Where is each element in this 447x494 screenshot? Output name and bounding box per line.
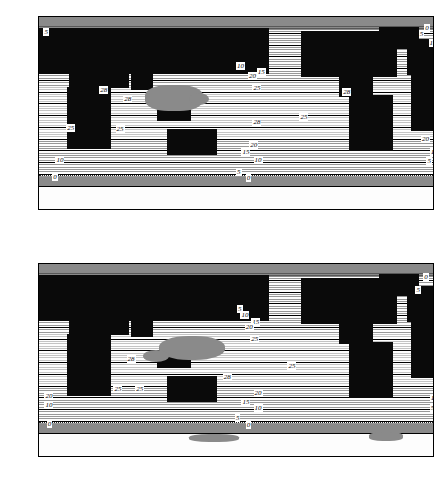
- contour-value-label: 25: [66, 124, 75, 132]
- x-axis-tick: [411, 456, 412, 457]
- contour-value-label: 5: [430, 404, 434, 412]
- y-axis-tick: [38, 17, 39, 18]
- contour-value-label: 0: [47, 420, 53, 428]
- antarctic-ice-region: [39, 177, 433, 186]
- y-axis-tick: [38, 209, 39, 210]
- continent-south-america: [349, 95, 393, 151]
- contour-value-label: 28: [127, 355, 136, 363]
- contour-value-label: 28: [223, 373, 232, 381]
- x-axis-tick: [302, 456, 303, 457]
- y-axis-tick: [38, 177, 39, 178]
- figure-container: 5051010152025282828282525252020151510105…: [0, 0, 447, 494]
- continent-eurasia-south: [69, 319, 129, 335]
- contour-value-label: 20: [249, 141, 258, 149]
- x-axis-tick: [170, 456, 171, 457]
- contour-value-label: 5: [43, 28, 49, 36]
- continent-australia: [167, 376, 217, 402]
- contour-value-label: 0: [52, 173, 58, 181]
- x-axis-tick: [83, 209, 84, 210]
- y-axis-tick: [38, 424, 39, 425]
- x-axis-tick: [170, 209, 171, 210]
- contour-value-label: 10: [429, 39, 434, 47]
- contour-value-label: 0: [423, 273, 429, 281]
- contour-value-label: 10: [254, 404, 263, 412]
- x-axis-tick: [258, 209, 259, 210]
- x-axis-tick: [345, 209, 346, 210]
- x-axis-tick: [389, 456, 390, 457]
- y-axis-tick: [38, 113, 39, 114]
- y-axis-tick: [38, 392, 39, 393]
- x-axis-tick: [214, 456, 215, 457]
- contour-value-label: 15: [430, 148, 434, 156]
- y-axis-tick: [38, 145, 39, 146]
- x-axis-tick: [83, 456, 84, 457]
- contour-value-label: 5: [235, 414, 241, 422]
- y-axis-tick: [38, 81, 39, 82]
- panel-top: 5051010152025282828282525252020151510105…: [0, 0, 447, 247]
- x-axis-tick: [127, 209, 128, 210]
- contour-value-label: 25: [250, 335, 259, 343]
- x-axis-tick: [127, 456, 128, 457]
- contour-value-label: 5: [236, 168, 242, 176]
- y-axis-tick: [38, 264, 39, 265]
- continent-africa-west: [411, 75, 433, 131]
- x-axis-tick: [39, 456, 40, 457]
- map-plot-bottom: 0551015202528252825252020151510105500 90…: [38, 263, 434, 457]
- contour-value-label: 28: [342, 88, 351, 96]
- contour-value-label: 10: [55, 156, 64, 164]
- x-axis-tick: [411, 209, 412, 210]
- x-axis-tick: [433, 209, 434, 210]
- warm-pool-shading-east: [189, 93, 209, 105]
- antarctic-shelf-shading-east: [369, 432, 403, 441]
- contour-value-label: 10: [44, 401, 53, 409]
- contour-value-label: 20: [254, 389, 263, 397]
- continent-central-america: [339, 322, 373, 344]
- contour-value-label: 15: [430, 394, 434, 402]
- continent-india: [131, 319, 153, 337]
- x-axis-tick: [39, 209, 40, 210]
- warm-pool-shading-west: [143, 350, 169, 362]
- contour-value-label: 20: [245, 323, 254, 331]
- x-axis-tick: [389, 209, 390, 210]
- continent-eurasia: [39, 28, 269, 74]
- contour-value-label: 25: [287, 362, 296, 370]
- contour-value-label: 0: [246, 421, 252, 429]
- contour-value-label: 25: [113, 385, 122, 393]
- contour-value-label: 15: [257, 68, 266, 76]
- contour-value-label: 25: [299, 113, 308, 121]
- y-axis-tick: [38, 456, 39, 457]
- continent-africa-west: [411, 322, 433, 378]
- x-axis-tick: [302, 209, 303, 210]
- y-axis-tick: [38, 296, 39, 297]
- contour-value-label: 20: [248, 72, 257, 80]
- sea-ice-edge-line: [39, 422, 433, 423]
- continent-africa: [67, 334, 111, 396]
- y-axis-tick: [38, 360, 39, 361]
- x-axis-tick: [258, 456, 259, 457]
- contour-value-label: 5: [415, 286, 421, 294]
- x-axis-tick: [345, 456, 346, 457]
- contour-value-label: 25: [252, 84, 261, 92]
- contour-value-label: 28: [123, 95, 132, 103]
- contour-value-label: 28: [252, 118, 261, 126]
- y-axis-tick: [38, 328, 39, 329]
- y-axis-tick: [38, 49, 39, 50]
- contour-value-label: 25: [116, 125, 125, 133]
- continent-africa: [67, 87, 111, 149]
- x-axis-tick: [433, 456, 434, 457]
- contour-value-label: 5: [419, 30, 425, 38]
- contour-value-label: 20: [44, 392, 53, 400]
- contour-value-label: 5: [426, 157, 432, 165]
- continent-australia: [167, 129, 217, 155]
- contour-value-label: 0: [424, 24, 430, 32]
- x-axis-tick: [214, 209, 215, 210]
- map-plot-top: 5051010152025282828282525252020151510105…: [38, 16, 434, 210]
- contour-value-label: 20: [421, 135, 430, 143]
- contour-value-label: 10: [240, 311, 249, 319]
- continent-india: [131, 72, 153, 90]
- continent-south-america: [349, 342, 393, 398]
- continent-eurasia: [39, 275, 269, 321]
- contour-value-label: 28: [99, 86, 108, 94]
- contour-value-label: 10: [254, 156, 263, 164]
- contour-value-label: 15: [241, 148, 250, 156]
